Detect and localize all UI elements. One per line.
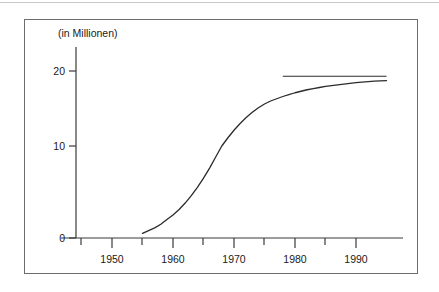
x-tick-label-1980: 1980 bbox=[283, 253, 307, 265]
figure-frame: 20 10 0 (in Millionen) 1950 1960 1970 19… bbox=[24, 19, 418, 274]
y-tick-label-0: 0 bbox=[59, 232, 65, 244]
x-tick-label-1950: 1950 bbox=[100, 253, 124, 265]
y-tick-label-10: 10 bbox=[53, 140, 65, 152]
x-tick-label-1990: 1990 bbox=[344, 253, 368, 265]
data-series-line bbox=[143, 81, 387, 234]
x-tick-label-1970: 1970 bbox=[222, 253, 246, 265]
y-tick-label-20: 20 bbox=[53, 65, 65, 77]
top-rule-divider bbox=[0, 2, 439, 3]
chart-page: 20 10 0 (in Millionen) 1950 1960 1970 19… bbox=[0, 0, 439, 292]
x-tick-label-1960: 1960 bbox=[161, 253, 185, 265]
unit-label: (in Millionen) bbox=[58, 27, 118, 39]
line-chart-plot: 20 10 0 (in Millionen) 1950 1960 1970 19… bbox=[25, 20, 417, 273]
